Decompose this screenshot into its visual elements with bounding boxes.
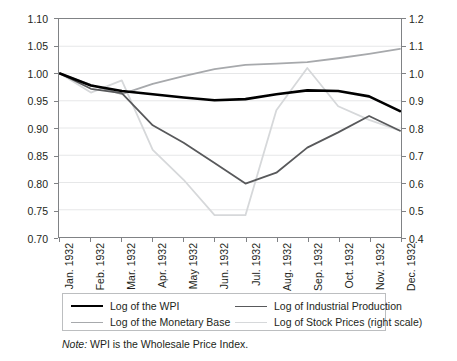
y-axis-left-tick-label: 0.90 [8,123,48,135]
x-axis-tick-mark [401,238,402,242]
y-axis-right-tick-label: 0.8 [409,123,439,135]
x-axis-tick-mark [59,238,60,242]
y-axis-left-tick-label: 1.00 [8,68,48,80]
y-axis-left-tick-label: 0.85 [8,150,48,162]
note-text: WPI is the Wholesale Price Index. [87,338,248,350]
y-axis-right-tick-mark [402,101,406,102]
y-axis-right-tick-mark [402,18,406,19]
y-axis-left-tick-label: 0.80 [8,178,48,190]
y-axis-right-tick-mark [402,211,406,212]
y-axis-right-tick-mark [402,156,406,157]
legend-item: Log of the Monetary Base [71,314,230,330]
y-axis-right-tick-label: 1.2 [409,13,439,25]
x-axis-tick-label: Dec. 1932 [405,243,417,291]
x-axis-tick-label: Jun. 1932 [218,243,230,289]
x-axis-tick-label: May 1932 [187,243,199,289]
x-axis-tick-label: Aug. 1932 [281,243,293,291]
x-axis-tick-label: Jan. 1932 [63,243,75,289]
y-axis-right-tick-mark [402,238,406,239]
note-keyword: Note: [62,338,87,350]
legend-item: Log of Industrial Production [235,298,402,314]
y-axis-right-tick-label: 0.7 [409,150,439,162]
y-axis-left-tick-label: 0.70 [8,233,48,245]
x-axis-tick-label: Jul. 1932 [250,243,262,286]
x-axis-tick-mark [277,238,278,242]
x-axis-tick-label: Feb. 1932 [94,243,106,290]
x-axis-tick-mark [214,238,215,242]
x-axis-tick-label: Oct. 1932 [343,243,355,289]
chart-note: Note: WPI is the Wholesale Price Index. [62,338,248,350]
x-axis-tick-mark [183,238,184,242]
x-axis-tick-mark [121,238,122,242]
y-axis-left-tick-label: 1.10 [8,13,48,25]
y-axis-right-tick-label: 0.5 [409,205,439,217]
y-axis-right-tick-mark [402,46,406,47]
series-line [60,49,400,94]
y-axis-right-tick-mark [402,183,406,184]
y-axis-right-tick-label: 1.0 [409,68,439,80]
x-axis-tick-mark [339,238,340,242]
y-axis-left-tick-mark [54,238,58,239]
legend-swatch [235,322,267,323]
plot-area [58,18,402,238]
y-axis-right-tick-label: 1.1 [409,40,439,52]
x-axis-tick-mark [246,238,247,242]
x-axis-tick-label: Mar. 1932 [125,243,137,290]
y-axis-left-tick-label: 0.95 [8,95,48,107]
x-axis-tick-label: Nov. 1932 [374,243,386,290]
y-axis-left-tick-label: 0.75 [8,205,48,217]
legend-label: Log of Industrial Production [274,300,402,312]
series-lines [59,19,401,237]
legend-label: Log of Stock Prices (right scale) [274,316,422,328]
chart-figure: 1.101.051.000.950.900.850.800.750.70 1.2… [0,0,457,361]
legend-label: Log of the WPI [110,300,179,312]
y-axis-right-tick-mark [402,73,406,74]
legend-swatch [71,322,103,323]
y-axis-right-tick-label: 0.6 [409,178,439,190]
y-axis-right-tick-mark [402,128,406,129]
y-axis-left-tick-label: 1.05 [8,40,48,52]
legend-item: Log of Stock Prices (right scale) [235,314,422,330]
legend-swatch [235,306,267,307]
x-axis-tick-mark [152,238,153,242]
x-axis-tick-mark [308,238,309,242]
x-axis-tick-mark [90,238,91,242]
legend-swatch [71,305,103,307]
x-axis-tick-mark [370,238,371,242]
chart-legend: Log of the WPILog of Industrial Producti… [62,293,386,331]
legend-item: Log of the WPI [71,298,179,314]
x-axis-tick-label: Sep. 1932 [312,243,324,291]
x-axis-tick-label: Apr. 1932 [156,243,168,288]
legend-label: Log of the Monetary Base [110,316,230,328]
y-axis-right-tick-label: 0.9 [409,95,439,107]
